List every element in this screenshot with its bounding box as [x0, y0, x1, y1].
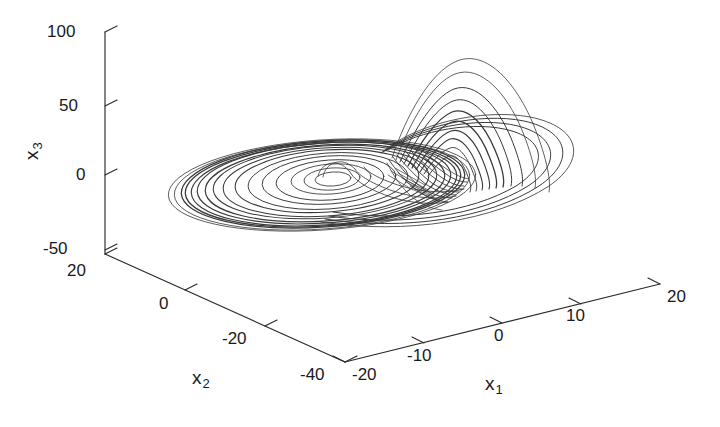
x3-tick-label-50: 50: [59, 97, 78, 114]
x3-tick-0: [105, 169, 117, 175]
x3-tick-50: [105, 100, 117, 106]
figure-panel: 100 50 0 -50 20 0 -20 -40 -20 -10 0 10 2…: [0, 0, 720, 427]
x3-tick-100: [105, 26, 117, 32]
x1-tick-label-neg10: -10: [407, 347, 432, 364]
x2-axis-title: x2: [192, 368, 209, 387]
x1-tick-10: [569, 298, 581, 304]
x1-tick-20: [648, 278, 660, 284]
x3-axis-title-sub: 3: [30, 142, 45, 149]
x1-axis-title-sub: 1: [496, 382, 503, 397]
x1-tick-neg10: [412, 337, 424, 343]
x2-axis-title-text: x: [192, 367, 202, 388]
x3-tick-label-neg50: -50: [43, 240, 68, 257]
x2-tick-neg20: [265, 320, 277, 326]
x2-tick-label-neg40: -40: [300, 366, 325, 383]
attractor-plot: [0, 0, 720, 427]
x1-axis-title-text: x: [485, 373, 495, 394]
x3-tick-label-100: 100: [47, 23, 75, 40]
x1-tick-neg20: [333, 356, 345, 362]
x1-tick-label-0: 0: [494, 327, 503, 344]
x1-axis-title: x1: [485, 374, 502, 393]
x3-tick-label-0: 0: [76, 166, 85, 183]
x1-tick-label-20: 20: [667, 288, 686, 305]
x2-tick-label-neg20: -20: [222, 330, 247, 347]
x1-tick-label-10: 10: [566, 307, 585, 324]
x2-axis-title-sub: 2: [203, 376, 210, 391]
attractor-trajectory: [165, 59, 573, 241]
x2-tick-label-20: 20: [67, 262, 86, 279]
x2-tick-0: [185, 284, 197, 290]
x3-axis-title-text: x: [21, 151, 42, 161]
x1-tick-label-neg20: -20: [352, 366, 377, 383]
x2-tick-label-0: 0: [159, 295, 168, 312]
x1-tick-0: [490, 317, 502, 323]
x3-axis-title: x3: [22, 143, 41, 160]
